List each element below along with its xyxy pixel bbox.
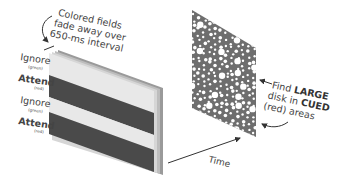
svg-text:Ignore: Ignore [20,94,52,109]
svg-text:(green): (green) [28,64,44,71]
svg-text:(red): (red) [34,128,45,134]
curved-arrow-icon [262,122,288,127]
svg-text:Ignore: Ignore [20,51,52,66]
annotation-fade: Colored fields fade away over 650-ms int… [49,6,130,54]
diagram-canvas: Colored fields fade away over 650-ms int… [0,0,340,180]
svg-text:(red): (red) [34,85,45,91]
annotation-task: Find LARGE disk in CUED (red) areas [263,78,333,124]
dot-field-panel [189,7,258,172]
arrow-icon [260,80,272,84]
stacked-display-panels [49,50,163,175]
svg-text:(green): (green) [28,107,44,114]
pointer-line [44,46,54,50]
time-label: Time [207,154,232,169]
